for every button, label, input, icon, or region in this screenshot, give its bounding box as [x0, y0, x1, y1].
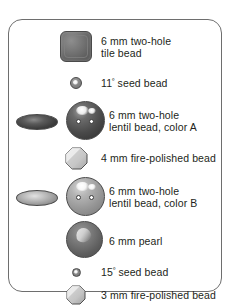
bead-hole-right-icon	[89, 195, 94, 200]
bead-hole-left-icon	[76, 119, 81, 124]
rounded-square-tile-bead-icon	[60, 31, 92, 62]
tiny-circle-seed-bead-icon	[72, 268, 81, 277]
legend-row-pearl-6mm: 6 mm pearl	[11, 220, 221, 262]
highlight-secondary-icon	[88, 184, 96, 190]
legend-label-lentil-bead-color-a: 6 mm two-holelentil bead, color A	[109, 109, 221, 134]
lentil-bead-side-view-light-icon	[16, 190, 58, 206]
seed-bead-11-text: 11	[101, 77, 112, 89]
pearl-6mm-swatch	[11, 218, 103, 264]
legend-label-lentil-bead-color-b: 6 mm two-holelentil bead, color B	[109, 185, 221, 210]
bead-legend-panel: 6 mm two-holetile bead 11º seed bead 6 m…	[8, 19, 222, 292]
octagon-shape	[65, 147, 88, 170]
legend-row-fire-polished-4mm: 4 mm fire-polished bead	[51, 144, 221, 172]
octagon-fire-polished-bead-icon	[65, 147, 88, 170]
legend-row-seed-bead-11: 11º seed bead	[51, 72, 221, 94]
two-hole-lentil-bead-light-icon	[66, 177, 105, 216]
seed-bead-11-swatch	[51, 72, 101, 94]
legend-label-fire-polished-3mm: 3 mm fire-polished bead	[101, 289, 221, 302]
tile-bead-swatch	[51, 26, 101, 68]
lentil-bead-color-b-swatch	[11, 174, 103, 220]
legend-row-seed-bead-15: 15º seed bead	[51, 262, 221, 282]
legend-label-pearl-6mm: 6 mm pearl	[109, 235, 221, 248]
highlight-icon	[74, 270, 78, 274]
legend-label-fire-polished-4mm: 4 mm fire-polished bead	[101, 152, 221, 165]
fire-polished-3mm-swatch	[51, 282, 101, 308]
seed-bead-15-suffix: seed bead	[115, 266, 168, 278]
legend-row-fire-polished-3mm: 3 mm fire-polished bead	[51, 282, 221, 308]
legend-label-tile-bead: 6 mm two-holetile bead	[101, 35, 221, 60]
legend-row-lentil-bead-color-a: 6 mm two-holelentil bead, color A	[11, 98, 221, 144]
legend-row-lentil-bead-color-b: 6 mm two-holelentil bead, color B	[11, 174, 221, 220]
bead-hole-left-icon	[76, 195, 81, 200]
seed-bead-15-swatch	[51, 262, 101, 282]
highlight-icon	[73, 80, 78, 85]
two-hole-lentil-bead-dark-icon	[66, 101, 105, 140]
legend-label-seed-bead-15: 15º seed bead	[101, 266, 221, 279]
legend-label-seed-bead-11: 11º seed bead	[101, 77, 221, 90]
octagon-shape-small	[66, 285, 86, 305]
pearl-sphere-icon	[66, 221, 103, 258]
fire-polished-4mm-swatch	[51, 144, 101, 172]
seed-bead-11-suffix: seed bead	[115, 77, 168, 89]
legend-row-tile-bead: 6 mm two-holetile bead	[51, 26, 221, 68]
highlight-secondary-icon	[88, 108, 96, 114]
seed-bead-15-text: 15	[101, 266, 113, 278]
lentil-bead-side-view-dark-icon	[16, 114, 58, 130]
small-circle-seed-bead-icon	[70, 77, 82, 89]
pearl-highlight-icon	[74, 226, 93, 244]
lentil-bead-color-a-swatch	[11, 98, 103, 144]
octagon-fire-polished-bead-small-icon	[66, 285, 86, 305]
bead-hole-right-icon	[89, 119, 94, 124]
